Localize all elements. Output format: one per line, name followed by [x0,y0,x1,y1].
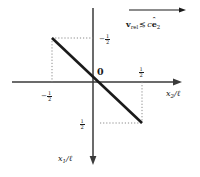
tick-label-x-negative-half: −12 [41,88,52,104]
tick-label-x-negative-half-sign: − [41,92,47,100]
x-axis-arrowhead [173,79,182,86]
physics-line-diagram: 0 x2/ℓ x1/ℓ −12 12 −12 12 vrel≲cˆe2 [0,0,200,177]
fraction-denominator: 2 [105,40,110,46]
x-axis-label: x2/ℓ [166,90,180,99]
unit-vector-e: ˆe [152,20,157,28]
tick-label-y-negative-half-fraction: 12 [105,34,110,46]
y-axis-arrowhead [90,156,97,165]
tick-label-x-positive-half-fraction: 12 [139,67,144,79]
hat-accent: ˆ [152,17,156,25]
boundary-line [52,38,142,123]
velocity-condition-label: vrel≲cˆe2 [126,14,160,30]
y-axis-label-suffix: /ℓ [66,154,72,163]
tick-label-y-positive-half: 12 [80,116,85,132]
tick-label-y-negative-half-sign: − [99,35,105,43]
x-axis-label-suffix: /ℓ [174,89,180,98]
origin-label: 0 [97,67,104,77]
lesssim-relation: ≲ [138,21,147,29]
velocity-arrow-group [129,7,186,12]
fraction-denominator: 2 [47,97,52,103]
fraction-denominator: 2 [139,73,144,79]
tick-label-y-positive-half-fraction: 12 [80,119,85,131]
velocity-subscript: rel [131,24,139,30]
unit-vector-subscript: 2 [157,24,160,30]
fraction-denominator: 2 [80,125,85,131]
y-axis-group [90,8,97,165]
velocity-condition-text: vrel≲cˆe2 [126,20,160,29]
velocity-arrow-head [179,7,186,12]
tick-label-x-negative-half-fraction: 12 [47,91,52,103]
tick-label-y-negative-half: −12 [99,31,110,47]
y-axis-label: x1/ℓ [58,155,72,164]
tick-label-x-positive-half: 12 [139,64,144,80]
